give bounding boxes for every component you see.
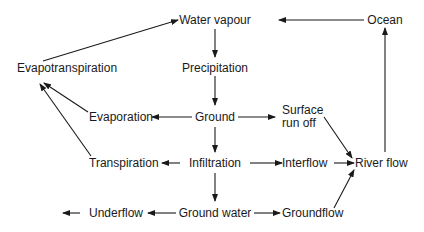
- node-transpiration: Transpiration: [89, 157, 159, 170]
- node-surface-run-off: Surface run off: [282, 104, 323, 130]
- edge-surface-run-off-to-river-flow: [324, 117, 352, 158]
- edge-evaporation-to-evapotranspiration: [44, 83, 88, 112]
- node-precipitation: Precipitation: [182, 62, 248, 75]
- node-ocean: Ocean: [367, 14, 402, 27]
- node-groundflow: Groundflow: [282, 207, 343, 220]
- node-ground-water: Ground water: [179, 207, 252, 220]
- node-ground: Ground: [195, 111, 235, 124]
- edge-evapotranspiration-to-water-vapour: [43, 20, 178, 61]
- node-infiltration: Infiltration: [189, 157, 241, 170]
- node-interflow: Interflow: [282, 157, 327, 170]
- node-surface-run-off-line-2: run off: [282, 117, 323, 130]
- node-evaporation: Evaporation: [89, 111, 153, 124]
- edge-transpiration-to-evapotranspiration: [40, 84, 91, 156]
- edge-groundflow-to-river-flow: [334, 170, 354, 208]
- node-river-flow: River flow: [355, 157, 408, 170]
- node-water-vapour: Water vapour: [179, 14, 251, 27]
- node-evapotranspiration: Evapotranspiration: [17, 62, 117, 75]
- node-underflow: Underflow: [89, 207, 143, 220]
